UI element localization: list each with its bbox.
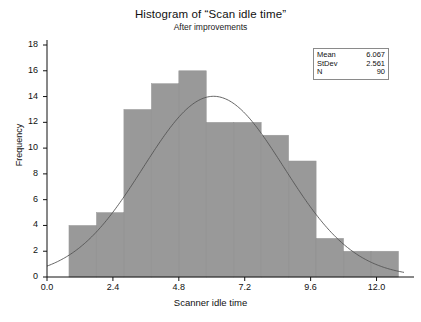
histogram-chart: Histogram of “Scan idle time” After impr… <box>0 0 421 322</box>
histogram-bar <box>234 122 261 277</box>
legend-value-n: 90 <box>377 68 385 77</box>
y-tick-label: 16 <box>12 65 38 75</box>
x-tick-label: 12.0 <box>357 282 397 292</box>
x-tick-label: 2.4 <box>93 282 133 292</box>
x-axis-label: Scanner idle time <box>0 297 421 308</box>
histogram-bar <box>179 71 206 277</box>
x-tick-label: 0.0 <box>27 282 67 292</box>
statistics-legend: Mean 6.067 StDev 2.561 N 90 <box>313 48 389 80</box>
y-tick-label: 4 <box>12 219 38 229</box>
histogram-bar <box>96 213 123 277</box>
legend-row: N 90 <box>317 68 385 77</box>
legend-row: StDev 2.561 <box>317 60 385 69</box>
y-tick-label: 6 <box>12 194 38 204</box>
histogram-bar <box>69 225 96 277</box>
legend-key-n: N <box>317 68 326 77</box>
x-tick-label: 7.2 <box>225 282 265 292</box>
y-tick-label: 0 <box>12 271 38 281</box>
x-tick-label: 9.6 <box>291 282 331 292</box>
histogram-bar <box>261 135 288 277</box>
histogram-bar <box>206 122 233 277</box>
y-tick-label: 14 <box>12 91 38 101</box>
y-tick-label: 8 <box>12 168 38 178</box>
histogram-bar <box>151 84 178 277</box>
x-tick-label: 4.8 <box>159 282 199 292</box>
histogram-bar <box>289 161 316 277</box>
histogram-bar <box>124 109 151 277</box>
y-tick-label: 18 <box>12 39 38 49</box>
y-tick-label: 2 <box>12 245 38 255</box>
y-tick-label: 10 <box>12 142 38 152</box>
y-tick-label: 12 <box>12 116 38 126</box>
histogram-bar <box>316 238 343 277</box>
